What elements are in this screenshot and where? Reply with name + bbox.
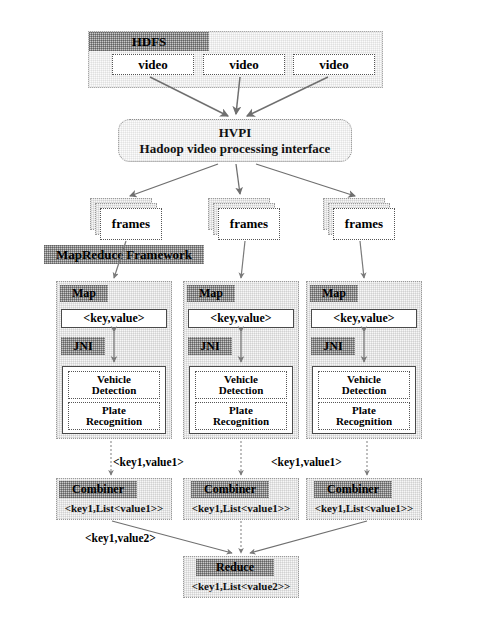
diagram-canvas: HDFS video video video HVPI Hadoop video… (0, 0, 478, 632)
plate-recognition-line2-2: Recognition (213, 416, 269, 427)
map-keyvalue-box-3[interactable]: <key,value> (311, 309, 417, 328)
vehicle-detection-box-2[interactable]: Vehicle Detection (195, 371, 287, 399)
map-header-1: Map (60, 285, 108, 302)
vehicle-detection-line2-2: Detection (219, 385, 264, 396)
hdfs-video-label-3: video (319, 58, 349, 71)
plate-recognition-box-3[interactable]: Plate Recognition (318, 402, 410, 430)
map-keyvalue-box-2[interactable]: <key,value> (188, 309, 294, 328)
frames-box-1[interactable]: frames (100, 208, 162, 240)
jni-box-1[interactable]: JNI (61, 337, 105, 355)
plate-recognition-box-2[interactable]: Plate Recognition (195, 402, 287, 430)
frames-box-2[interactable]: frames (218, 208, 280, 240)
reduce-header: Reduce (196, 559, 274, 576)
edge-label-key1value2: <key1,value2> (85, 532, 156, 544)
frames-label-3: frames (345, 217, 383, 230)
combiner-label-1: Combiner (72, 482, 124, 497)
map-label-3: Map (322, 286, 346, 301)
vehicle-detection-line2-3: Detection (342, 385, 387, 396)
map-keyvalue-box-1[interactable]: <key,value> (61, 309, 167, 328)
map-label-2: Map (199, 286, 223, 301)
hvpi-title: HVPI (219, 125, 252, 141)
jni-label-1: JNI (73, 339, 92, 354)
frames-label-2: frames (230, 217, 268, 230)
plate-recognition-line2-1: Recognition (86, 416, 142, 427)
map-keyvalue-label-1: <key,value> (83, 312, 144, 324)
hdfs-video-label-2: video (229, 58, 259, 71)
frames-label-1: frames (112, 217, 150, 230)
hdfs-video-box-1[interactable]: video (112, 54, 194, 75)
combiner-output-2: <key1,List<value1>> (183, 499, 299, 516)
hvpi-box[interactable]: HVPI Hadoop video processing interface (118, 119, 352, 162)
vehicle-detection-line2-1: Detection (92, 385, 137, 396)
map-keyvalue-label-3: <key,value> (333, 312, 394, 324)
combiner-header-3: Combiner (314, 481, 392, 498)
combiner-header-2: Combiner (191, 481, 269, 498)
plate-recognition-box-1[interactable]: Plate Recognition (68, 402, 160, 430)
map-keyvalue-label-2: <key,value> (210, 312, 271, 324)
frames-box-3[interactable]: frames (333, 208, 395, 240)
combiner-header-1: Combiner (59, 481, 137, 498)
edge-label-key1value1-right: <key1,value1> (271, 456, 342, 468)
reduce-output: <key1,List<value2>> (183, 577, 299, 594)
jni-box-2[interactable]: JNI (188, 337, 232, 355)
combiner-label-3: Combiner (327, 482, 379, 497)
map-header-3: Map (310, 285, 358, 302)
vehicle-detection-box-1[interactable]: Vehicle Detection (68, 371, 160, 399)
reduce-label: Reduce (216, 560, 254, 575)
combiner-label-2: Combiner (204, 482, 256, 497)
jni-label-3: JNI (323, 339, 342, 354)
map-label-1: Map (72, 286, 96, 301)
hdfs-video-label-1: video (138, 58, 168, 71)
jni-box-3[interactable]: JNI (311, 337, 355, 355)
mapreduce-framework-header: MapReduce Framework (44, 245, 204, 264)
hdfs-video-box-3[interactable]: video (293, 54, 375, 75)
combiner-output-1: <key1,List<value1>> (56, 499, 172, 516)
hvpi-subtitle: Hadoop video processing interface (140, 141, 331, 157)
hdfs-video-box-2[interactable]: video (203, 54, 285, 75)
vehicle-detection-box-3[interactable]: Vehicle Detection (318, 371, 410, 399)
mapreduce-framework-label: MapReduce Framework (56, 247, 192, 263)
edge-label-key1value1-left: <key1,value1> (113, 456, 184, 468)
hdfs-header-bar: HDFS (89, 32, 209, 51)
combiner-output-3: <key1,List<value1>> (306, 499, 422, 516)
map-header-2: Map (187, 285, 235, 302)
plate-recognition-line2-3: Recognition (336, 416, 392, 427)
hdfs-label: HDFS (132, 34, 167, 50)
jni-label-2: JNI (200, 339, 219, 354)
